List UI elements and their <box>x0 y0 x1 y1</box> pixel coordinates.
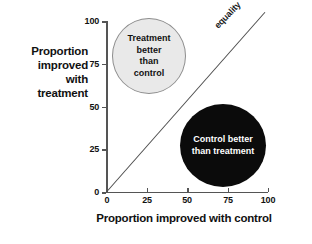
x-tick-label-100: 100 <box>261 195 275 205</box>
x-tick-label-25: 25 <box>142 195 152 205</box>
treatment-bubble-line-2: better <box>127 45 170 57</box>
y-axis-title-line-4: treatment <box>2 86 88 100</box>
y-tick-label-0: 0 <box>94 187 99 197</box>
x-tick-mark-75 <box>228 188 230 192</box>
x-tick-label-50: 50 <box>182 195 192 205</box>
y-tick-label-50: 50 <box>89 102 99 112</box>
y-axis-title-line-2: improved <box>2 58 88 72</box>
y-axis-title-line-1: Proportion <box>2 44 88 58</box>
x-tick-mark-50 <box>187 188 189 192</box>
control-bubble-line-2: than treatment <box>192 146 255 158</box>
y-tick-mark-25 <box>102 149 106 151</box>
x-tick-mark-25 <box>147 188 149 192</box>
x-tick-label-75: 75 <box>223 195 233 205</box>
control-bubble-text: Control better than treatment <box>192 134 255 157</box>
equality-line-label: equality <box>212 0 242 30</box>
y-axis-title-line-3: with <box>2 72 88 86</box>
treatment-better-bubble: Treatment better than control <box>112 18 186 94</box>
control-bubble-line-1: Control better <box>192 134 255 146</box>
x-tick-label-0: 0 <box>105 195 110 205</box>
y-tick-mark-75 <box>102 64 106 66</box>
treatment-bubble-line-4: control <box>127 68 170 80</box>
treatment-bubble-text: Treatment better than control <box>127 33 170 79</box>
y-tick-label-100: 100 <box>85 16 99 26</box>
x-tick-mark-100 <box>268 188 270 192</box>
control-better-bubble: Control better than treatment <box>180 104 266 187</box>
y-tick-mark-100 <box>102 21 106 23</box>
treatment-bubble-line-3: than <box>127 56 170 68</box>
x-axis-title: Proportion improved with control <box>74 212 294 224</box>
treatment-bubble-line-1: Treatment <box>127 33 170 45</box>
y-tick-mark-50 <box>102 107 106 109</box>
y-axis-title: Proportion improved with treatment <box>2 44 88 100</box>
y-tick-label-75: 75 <box>89 59 99 69</box>
y-tick-mark-0 <box>102 192 106 194</box>
y-axis-line <box>106 21 108 193</box>
chart-figure: Proportion improved with treatment 100 7… <box>0 0 312 244</box>
y-tick-label-25: 25 <box>89 144 99 154</box>
